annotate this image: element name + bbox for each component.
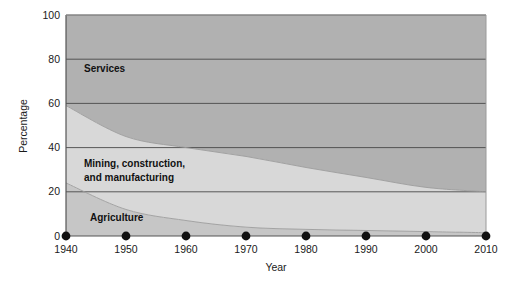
x-marker-1970 [242,232,251,241]
series-label-0: Services [84,63,126,74]
series-label-1: Mining, construction, [84,158,185,169]
y-axis-title: Percentage [17,99,29,153]
chart-canvas: 020406080100 194019501960197019801990200… [0,0,515,284]
x-marker-2010 [482,232,491,241]
y-tick-label-0: 0 [54,230,60,242]
x-axis-tick-labels: 19401950196019701980199020002010 [54,243,498,255]
y-tick-label-80: 80 [48,53,60,65]
series-label-2: and manufacturing [84,172,174,183]
x-tick-label-1950: 1950 [114,243,138,255]
x-marker-1980 [302,232,311,241]
series-label-3: Agriculture [90,212,144,223]
y-tick-label-40: 40 [48,141,60,153]
y-axis-tick-labels: 020406080100 [42,9,60,242]
y-tick-label-60: 60 [48,97,60,109]
x-marker-1940 [62,232,71,241]
stacked-area-chart: 020406080100 194019501960197019801990200… [0,0,515,284]
x-marker-1950 [122,232,131,241]
area-bands-group [66,15,486,236]
x-marker-2000 [422,232,431,241]
x-axis-title: Year [265,261,287,273]
x-tick-label-1990: 1990 [354,243,378,255]
x-tick-label-1940: 1940 [54,243,78,255]
y-tick-label-100: 100 [42,9,60,21]
x-marker-1990 [362,232,371,241]
x-tick-label-1970: 1970 [234,243,258,255]
x-tick-label-1980: 1980 [294,243,318,255]
y-tick-label-20: 20 [48,185,60,197]
x-tick-label-1960: 1960 [174,243,198,255]
x-marker-1960 [182,232,191,241]
x-tick-label-2000: 2000 [414,243,438,255]
x-tick-label-2010: 2010 [474,243,498,255]
